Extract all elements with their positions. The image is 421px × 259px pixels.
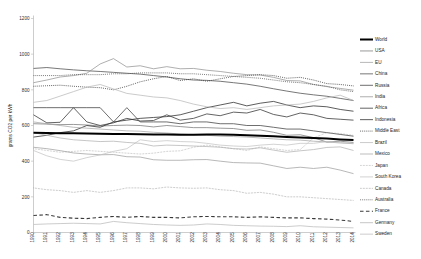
y-axis: 020040060080010001200 xyxy=(19,16,33,236)
x-tick-label: 1993 xyxy=(70,232,75,243)
x-tick-label: 2012 xyxy=(323,232,328,243)
y-tick-label: 1000 xyxy=(19,52,30,57)
x-tick-label: 1991 xyxy=(43,232,48,243)
legend-label-canada: Canada xyxy=(375,186,392,191)
x-tick-label: 1996 xyxy=(110,232,115,243)
x-tick-label: 2001 xyxy=(176,232,181,243)
y-axis-title-text: grams CO2 per kWh xyxy=(8,103,13,147)
legend-label-south-korea: South Korea xyxy=(375,174,401,179)
legend-label-australia: Australia xyxy=(375,197,394,202)
series-line-africa xyxy=(34,108,354,126)
legend-label-mexico: Mexico xyxy=(375,151,390,156)
x-tick-label: 1997 xyxy=(123,232,128,243)
y-tick-label: 1200 xyxy=(19,16,30,21)
x-tick-label: 2006 xyxy=(243,232,248,243)
legend-label-middle-east: Middle East xyxy=(375,128,400,133)
series-line-indonesia xyxy=(34,101,354,137)
legend-label-sweden: Sweden xyxy=(375,231,392,236)
series-line-brazil xyxy=(34,84,354,109)
series-line-russia xyxy=(34,108,354,137)
x-tick-label: 2007 xyxy=(256,232,261,243)
series-line-china xyxy=(34,68,354,101)
y-tick-label: 200 xyxy=(22,195,30,200)
y-tick-label: 400 xyxy=(22,159,30,164)
x-axis: 1990199119921993199419951996199719981999… xyxy=(30,232,356,243)
chart-legend: WorldUSAEUChinaRussiaIndiaAfricaIndonesi… xyxy=(360,37,401,237)
line-chart: 020040060080010001200 199019911992199319… xyxy=(0,0,421,259)
legend-label-japan: Japan xyxy=(375,163,388,168)
x-tick-label: 1995 xyxy=(96,232,101,243)
x-tick-label: 2009 xyxy=(283,232,288,243)
x-tick-label: 2000 xyxy=(163,232,168,243)
legend-label-france: France xyxy=(375,208,390,213)
legend-label-brazil: Brazil xyxy=(375,140,387,145)
chart-container: 020040060080010001200 199019911992199319… xyxy=(0,0,421,259)
y-axis-title: grams CO2 per kWh xyxy=(8,103,13,147)
series-line-india xyxy=(34,59,354,91)
x-tick-label: 1999 xyxy=(150,232,155,243)
x-tick-label: 2011 xyxy=(310,232,315,242)
legend-label-india: India xyxy=(375,94,386,99)
y-tick-label: 800 xyxy=(22,88,30,93)
x-tick-label: 2004 xyxy=(216,232,221,243)
legend-label-indonesia: Indonesia xyxy=(375,117,396,122)
legend-label-world: World xyxy=(375,37,388,42)
x-tick-label: 2013 xyxy=(336,232,341,243)
x-tick-label: 2014 xyxy=(350,232,355,243)
legend-label-africa: Africa xyxy=(375,105,387,110)
legend-label-germany: Germany xyxy=(375,220,395,225)
series-line-eu xyxy=(34,147,354,173)
x-tick-label: 1998 xyxy=(136,232,141,243)
legend-label-usa: USA xyxy=(375,48,386,53)
series-line-world xyxy=(34,133,354,140)
legend-label-eu: EU xyxy=(375,60,382,65)
x-tick-label: 1990 xyxy=(30,232,35,243)
series-line-canada xyxy=(34,187,354,200)
series-line-france xyxy=(34,215,354,222)
x-tick-label: 1992 xyxy=(56,232,61,243)
legend-label-china: China xyxy=(375,71,388,76)
x-tick-label: 1994 xyxy=(83,232,88,243)
x-tick-label: 2005 xyxy=(230,232,235,243)
x-tick-label: 2003 xyxy=(203,232,208,243)
legend-label-russia: Russia xyxy=(375,83,390,88)
x-tick-label: 2008 xyxy=(270,232,275,243)
y-tick-label: 600 xyxy=(22,123,30,128)
x-tick-label: 2010 xyxy=(296,232,301,243)
series-layer xyxy=(34,59,354,228)
series-line-sweden xyxy=(34,221,354,227)
x-tick-label: 2002 xyxy=(190,232,195,243)
